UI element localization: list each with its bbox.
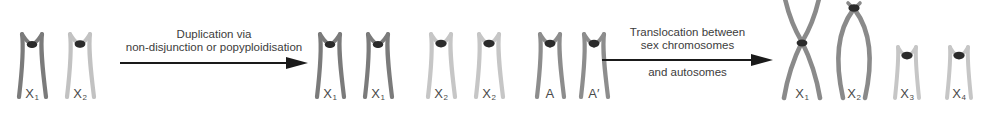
chromosome-x3: X3 — [886, 40, 928, 103]
chromosome-x2-translocated: X2 — [826, 0, 882, 103]
translocation-arrow: Translocation between sex chromosomes an… — [600, 0, 775, 125]
chromosome-label: A — [546, 86, 555, 101]
caption-line-3: and autosomes — [598, 66, 778, 79]
translocation-arrow-caption-above: Translocation between sex chromosomes — [598, 26, 778, 52]
duplication-arrow: Duplication via non-disjunction or popyp… — [118, 0, 310, 125]
caption-line-1: Translocation between — [598, 26, 778, 39]
chromosome-label: X2 — [73, 86, 87, 101]
chromosome-label: X1 — [323, 86, 337, 101]
chromosome-evolution-diagram: X1 X2 Duplication via non — [0, 0, 983, 125]
chromosome-label: X4 — [952, 86, 966, 101]
arrow-shaft-icon — [600, 53, 775, 67]
caption-line-2: sex chromosomes — [598, 39, 778, 52]
chromosome-x4: X4 — [938, 40, 980, 103]
chromosome-x2-copy-b: X2 — [467, 27, 511, 103]
duplication-arrow-caption: Duplication via non-disjunction or popyp… — [114, 28, 314, 54]
arrow-shaft-icon — [118, 56, 310, 70]
caption-line-2: non-disjunction or popyploidisation — [114, 41, 314, 54]
chromosome-x1-copy-b: X1 — [356, 27, 400, 103]
chromosome-label: X3 — [900, 86, 914, 101]
chromosome-label: A′ — [588, 86, 600, 101]
chromosome-label: X1 — [25, 86, 39, 101]
chromosome-a: A — [528, 27, 572, 103]
chromosome-group-translocated: X1 X2 — [768, 0, 983, 125]
chromosome-label: X2 — [482, 86, 496, 101]
chromosome-x2-copy-a: X2 — [419, 27, 463, 103]
chromosome-label: X1 — [371, 86, 385, 101]
chromosome-label: X2 — [434, 86, 448, 101]
chromosome-x2: X2 — [58, 27, 102, 103]
chromosome-x1: X1 — [10, 27, 54, 103]
chromosome-x1-translocated: X1 — [774, 0, 830, 103]
chromosome-label: X1 — [795, 86, 809, 101]
translocation-arrow-caption-below: and autosomes — [598, 66, 778, 79]
chromosome-label: X2 — [847, 86, 861, 101]
chromosome-x1-copy-a: X1 — [308, 27, 352, 103]
chromosome-group-duplicated: X1 X1 — [300, 0, 600, 125]
caption-line-1: Duplication via — [114, 28, 314, 41]
chromosome-group-initial: X1 X2 — [0, 0, 110, 125]
